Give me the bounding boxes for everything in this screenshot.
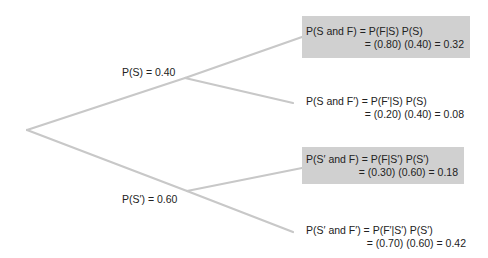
outcome-value: = (0.30) (0.60) = 0.18 [306, 166, 458, 179]
outcome-s-prime-and-f-prime: P(S′ and F′) = P(F′|S′) P(S′) = (0.70) (… [302, 222, 472, 252]
branch-root-to-s-prime [27, 130, 187, 191]
outcome-s-and-f-prime: P(S and F′) = P(F′|S) P(S) = (0.20) (0.4… [302, 93, 470, 123]
outcome-value: = (0.20) (0.40) = 0.08 [306, 108, 464, 121]
outcome-formula: P(S and F) = P(F|S) P(S) [306, 25, 464, 38]
branch-label-s: P(S) = 0.40 [122, 66, 175, 78]
outcome-s-and-f: P(S and F) = P(F|S) P(S) = (0.80) (0.40)… [302, 16, 470, 58]
outcome-formula: P(S′ and F) = P(F|S′) P(S′) [306, 153, 458, 166]
prob-s-text: P(S) = 0.40 [122, 66, 175, 78]
branch-root-to-s [27, 78, 185, 130]
outcome-s-prime-and-f: P(S′ and F) = P(F|S′) P(S′) = (0.30) (0.… [302, 147, 464, 184]
branch-s-prime-to-f [187, 168, 302, 191]
outcome-formula: P(S and F′) = P(F′|S) P(S) [306, 95, 464, 108]
prob-s-prime-text: P(S′) = 0.60 [122, 193, 177, 205]
branch-s-to-f [185, 37, 302, 78]
outcome-value: = (0.80) (0.40) = 0.32 [306, 38, 464, 51]
outcome-value: = (0.70) (0.60) = 0.42 [306, 237, 466, 250]
branch-s-to-f-prime [185, 78, 293, 103]
branch-label-s-prime: P(S′) = 0.60 [122, 193, 177, 205]
branch-s-prime-to-f-prime [187, 191, 293, 232]
outcome-formula: P(S′ and F′) = P(F′|S′) P(S′) [306, 224, 466, 237]
